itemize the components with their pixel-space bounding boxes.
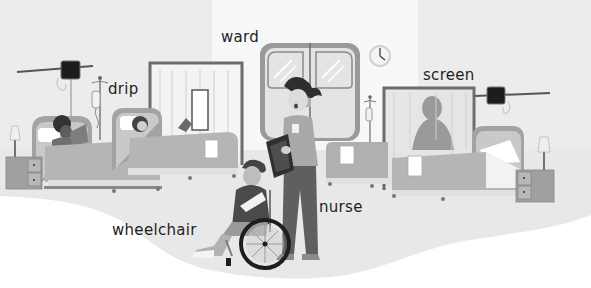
label-drip: drip [108,80,139,98]
label-screen: screen [423,66,475,84]
scene-artwork [0,0,591,288]
label-nurse: nurse [319,198,363,216]
label-wheelchair: wheelchair [112,221,197,239]
label-ward: ward [221,28,259,46]
hospital-ward-illustration: ward drip screen nurse wheelchair [0,0,591,288]
bed-3 [326,142,396,188]
wall-clock [369,45,391,67]
